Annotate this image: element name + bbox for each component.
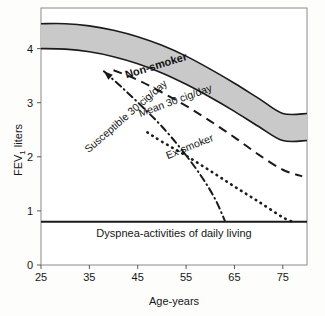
x-axis-title: Age-years bbox=[149, 295, 200, 307]
x-tick-label: 25 bbox=[35, 271, 47, 283]
x-axis-ticks: 253545556575 bbox=[35, 265, 289, 283]
chart-canvas: 01234 253545556575 FEV1 liters Age-years… bbox=[0, 0, 325, 316]
y-tick-label: 4 bbox=[27, 43, 33, 55]
y-axis-ticks: 01234 bbox=[27, 43, 41, 271]
y-tick-label: 0 bbox=[27, 259, 33, 271]
svg-text:FEV1 liters: FEV1 liters bbox=[12, 123, 27, 176]
y-tick-label: 2 bbox=[27, 151, 33, 163]
fev1-decline-chart: 01234 253545556575 FEV1 liters Age-years… bbox=[0, 0, 325, 316]
y-axis-title: FEV1 liters bbox=[12, 123, 27, 176]
dyspnea-threshold-label: Dyspnea-activities of daily living bbox=[96, 227, 251, 239]
x-tick-label: 65 bbox=[228, 271, 240, 283]
y-tick-label: 3 bbox=[27, 97, 33, 109]
x-tick-label: 75 bbox=[277, 271, 289, 283]
x-tick-label: 45 bbox=[132, 271, 144, 283]
y-tick-label: 1 bbox=[27, 205, 33, 217]
x-tick-label: 55 bbox=[180, 271, 192, 283]
x-tick-label: 35 bbox=[83, 271, 95, 283]
